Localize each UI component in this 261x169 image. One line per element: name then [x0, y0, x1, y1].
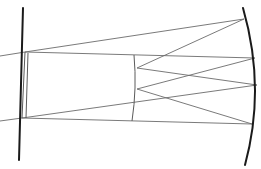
light-ray-6 [137, 19, 244, 68]
light-ray-3 [0, 118, 22, 121]
light-ray-9 [137, 89, 252, 124]
rays-group [0, 19, 257, 124]
left-focal-plane [19, 8, 23, 160]
left-slit-outer-line [26, 53, 28, 118]
light-ray-2 [25, 52, 255, 58]
light-ray-7 [137, 68, 257, 85]
light-ray-1 [25, 19, 244, 52]
light-ray-5 [22, 118, 252, 124]
light-ray-8 [137, 58, 255, 89]
optical-ray-diagram [0, 0, 261, 169]
middle-optical-element [132, 55, 135, 121]
